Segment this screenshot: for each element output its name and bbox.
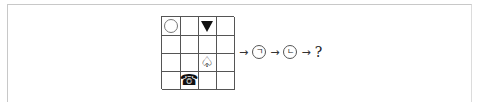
right-arrow-icon: → — [239, 46, 248, 59]
right-arrow-icon: → — [301, 46, 310, 59]
grid-cell-r3c1 — [162, 53, 181, 72]
grid-cell-r2c1 — [162, 35, 181, 54]
grid-cell-r1c2 — [180, 17, 199, 36]
grid-cell-r2c3 — [198, 35, 217, 54]
grid-cell-r3c4 — [216, 53, 235, 72]
grid-cell-r2c4 — [216, 35, 235, 54]
grid-cell-r4c3 — [198, 71, 217, 90]
circled-step-nieun: ㄴ — [283, 45, 297, 59]
grid-cell-r4c2: ☎ — [180, 71, 199, 90]
right-arrow-icon: → — [270, 46, 279, 59]
grid-cell-r1c1 — [162, 17, 181, 36]
grid-cell-r2c2 — [180, 35, 199, 54]
grid-cell-r1c4 — [216, 17, 235, 36]
grid-cell-r3c3: ♤ — [198, 53, 217, 72]
question-mark: ? — [315, 44, 323, 60]
grid-cell-r4c1 — [162, 71, 181, 90]
outlined-spade-icon: ♤ — [200, 55, 213, 70]
grid-cell-r3c2 — [180, 53, 199, 72]
grid-cell-r4c4 — [216, 71, 235, 90]
transformation-sequence: → ㄱ → ㄴ → ? — [239, 44, 322, 60]
telephone-icon: ☎ — [180, 73, 199, 88]
circled-step-giyeok: ㄱ — [252, 45, 266, 59]
circle-icon — [164, 19, 178, 33]
grid-cell-r1c3 — [198, 17, 217, 36]
symbol-grid: ♤ ☎ — [161, 16, 234, 89]
filled-down-triangle-icon — [201, 21, 213, 32]
